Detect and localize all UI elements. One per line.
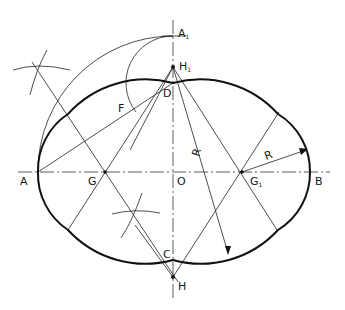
label-c: C bbox=[163, 248, 171, 261]
point-g bbox=[103, 170, 107, 174]
label-r-small: R bbox=[263, 148, 275, 163]
label-g: G bbox=[88, 175, 97, 188]
radius-small-line bbox=[242, 150, 306, 172]
label-d: D bbox=[163, 87, 171, 100]
radius-large-line bbox=[173, 67, 228, 253]
line-h-g1 bbox=[173, 112, 279, 277]
point-h bbox=[171, 275, 175, 279]
label-b: B bbox=[315, 175, 323, 188]
point-g1 bbox=[240, 170, 244, 174]
label-f: F bbox=[118, 102, 124, 115]
oval-construction-diagram: A B O G G1 D C H H1 A1 F R R bbox=[0, 0, 345, 310]
point-h1 bbox=[171, 65, 175, 69]
bisector-arc-bottom-1 bbox=[112, 211, 160, 214]
line-h1-g1 bbox=[173, 67, 277, 230]
label-o: O bbox=[177, 175, 186, 188]
bisector-arc-top-1 bbox=[13, 66, 70, 70]
label-a: A bbox=[20, 175, 28, 188]
label-h1: H1 bbox=[179, 60, 191, 73]
line-a-d bbox=[38, 83, 173, 172]
label-g1: G1 bbox=[250, 175, 263, 188]
line-h1-g bbox=[68, 67, 173, 230]
radius-large-arrow bbox=[225, 246, 231, 255]
arc-a1-f bbox=[126, 36, 173, 112]
arc-a-a1 bbox=[38, 36, 173, 172]
bisector-arc-bottom-2 bbox=[121, 193, 142, 238]
oval-outline bbox=[38, 79, 310, 263]
label-h: H bbox=[178, 280, 186, 293]
label-a1: A1 bbox=[178, 27, 190, 40]
